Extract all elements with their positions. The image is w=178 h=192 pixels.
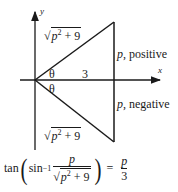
side-text: , positive <box>123 47 167 61</box>
radicand-rest: + 9 <box>71 170 90 184</box>
radicand-rest: + 9 <box>62 129 81 143</box>
upper-hypotenuse-label: √p2 + 9 <box>44 27 81 42</box>
sqrt-symbol: √ <box>44 129 51 143</box>
lower-hypotenuse-label: √p2 + 9 <box>44 127 81 142</box>
angle-label-lower: θ <box>49 83 55 95</box>
equals-sign: = <box>107 161 114 176</box>
lhs-numerator: p <box>67 153 77 166</box>
angle-label-upper: θ <box>49 68 55 80</box>
negative-side-label: p, negative <box>117 98 170 110</box>
radicand-rest: + 9 <box>62 29 81 43</box>
left-paren: ( <box>20 154 27 184</box>
sqrt-symbol: √ <box>53 170 60 184</box>
sqrt-symbol: √ <box>44 29 51 43</box>
x-axis-label: x <box>158 66 162 75</box>
inverse-exponent: −1 <box>43 164 52 173</box>
adjacent-side-label: 3 <box>82 68 88 80</box>
tan-function: tan <box>4 161 19 176</box>
positive-side-label: p, positive <box>117 48 167 60</box>
sin-function: sin <box>29 161 43 176</box>
y-axis-label: y <box>40 7 44 16</box>
rhs-denominator: 3 <box>121 168 127 183</box>
rhs-numerator: p <box>119 155 129 168</box>
right-paren: ) <box>94 154 101 184</box>
rhs-fraction: p 3 <box>119 155 129 183</box>
side-text: , negative <box>123 97 170 111</box>
lhs-fraction: p √p2 + 9 <box>53 153 90 184</box>
lhs-denominator: √p2 + 9 <box>53 166 90 184</box>
identity-formula: tan ( sin−1 p √p2 + 9 ) = p 3 <box>4 153 131 184</box>
